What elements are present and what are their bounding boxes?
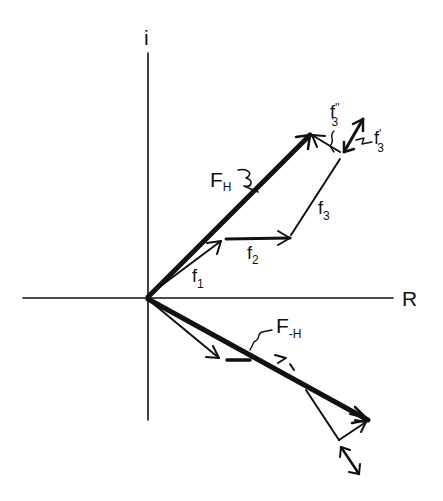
label-F-minus-H: F-H [276,314,302,341]
vector-f3-prime-minus [340,447,360,474]
vector-F-minus-H [148,299,368,423]
axis-label-R: R [402,287,417,310]
leader-F-minus-H [250,330,272,350]
leader-f3-prime [356,138,372,144]
label-f3-double-prime: f''3 [330,101,340,129]
vector-f1-minus [150,301,219,358]
label-F-H: FH [210,168,232,194]
vector-f3-double-prime [312,135,340,152]
label-f1: f1 [192,266,204,291]
phasor-diagram: i R FH f1 f2 f3 f''3 f'3 F-H [0,0,443,501]
vector-f1 [150,241,221,294]
vector-F-H [148,135,310,297]
label-f3: f3 [318,198,330,223]
axis-label-i: i [144,26,149,49]
vector-f2 [226,231,290,245]
vector-f3 [291,159,340,235]
label-f2: f2 [247,243,259,267]
label-f3-prime: f'3 [374,127,384,155]
vector-f3-prime [344,119,363,152]
